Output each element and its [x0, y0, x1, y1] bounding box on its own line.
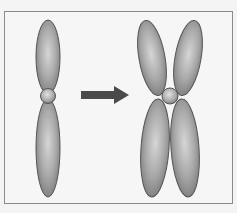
centromere: [162, 88, 178, 104]
chromosome-replication-diagram: [0, 0, 237, 213]
lower-arm: [36, 99, 60, 197]
centromere: [41, 89, 56, 104]
upper-arm: [36, 20, 60, 94]
